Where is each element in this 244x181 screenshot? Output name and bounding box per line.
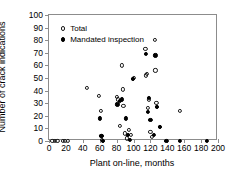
data-point [55,139,59,143]
y-tick [45,40,49,41]
legend-entry: Mandated inspection [61,34,144,45]
data-point [144,52,148,56]
y-tick [45,91,49,92]
y-tick-label: 90 [34,23,43,32]
y-tick-label: 70 [34,49,43,58]
x-tick-label: 40 [78,144,87,153]
y-tick-label: 60 [34,61,43,70]
legend-entry: Total [61,23,144,34]
y-tick-label: 80 [34,36,43,45]
x-tick-label: 60 [95,144,104,153]
filled-circle-icon [61,37,65,41]
x-tick-label: 200 [211,144,225,153]
data-point [120,97,124,101]
y-tick [45,128,49,129]
y-tick [45,103,49,104]
data-point [120,87,124,91]
data-point [131,77,135,81]
y-tick-label: 20 [34,112,43,121]
data-point [148,117,152,121]
data-point [120,63,124,67]
x-tick-label: 80 [112,144,121,153]
data-point [98,116,102,120]
y-tick [45,53,49,54]
y-tick-label: 50 [34,74,43,83]
data-point [205,139,209,143]
data-point [129,133,133,137]
legend-label: Mandated inspection [70,34,144,45]
x-tick-label: 0 [47,144,52,153]
y-axis-title: Number of crack indications [0,21,7,132]
data-point [178,109,182,113]
data-point [128,138,132,142]
y-tick [45,78,49,79]
y-tick-label: 0 [38,137,43,146]
y-axis-title-text: Number of crack indications [0,21,7,132]
y-tick [45,15,49,16]
x-tick-label: 160 [177,144,191,153]
data-point [101,139,105,143]
data-point [98,109,102,113]
x-tick-label: 20 [61,144,70,153]
x-tick-label: 140 [160,144,174,153]
data-point [145,72,149,76]
data-point [118,124,122,128]
y-tick [45,28,49,29]
open-circle-icon [61,26,65,30]
data-point [153,68,157,72]
data-point [97,94,101,98]
x-tick-label: 120 [143,144,157,153]
data-point [115,102,119,106]
y-tick-label: 100 [29,11,43,20]
legend-label: Total [70,23,87,34]
data-point [152,133,156,137]
data-point [155,105,159,109]
scatter-chart-figure: 0102030405060708090100 02040608010012014… [0,0,244,181]
plot-area: 0102030405060708090100 02040608010012014… [48,14,217,140]
y-tick [45,116,49,117]
data-point [158,125,162,129]
data-point [153,38,157,42]
y-tick [45,65,49,66]
data-point [124,116,128,120]
data-point [121,104,125,108]
data-point [85,86,89,90]
y-tick-label: 30 [34,99,43,108]
x-axis-title: Plant on-line, months [90,158,175,168]
x-tick-label: 100 [126,144,140,153]
y-tick-label: 10 [34,124,43,133]
y-tick-label: 40 [34,86,43,95]
x-tick-label: 180 [194,144,208,153]
data-point [153,53,157,57]
data-point [143,47,147,51]
data-point [127,128,131,132]
data-point [146,110,150,114]
chart-legend: TotalMandated inspection [61,23,144,45]
